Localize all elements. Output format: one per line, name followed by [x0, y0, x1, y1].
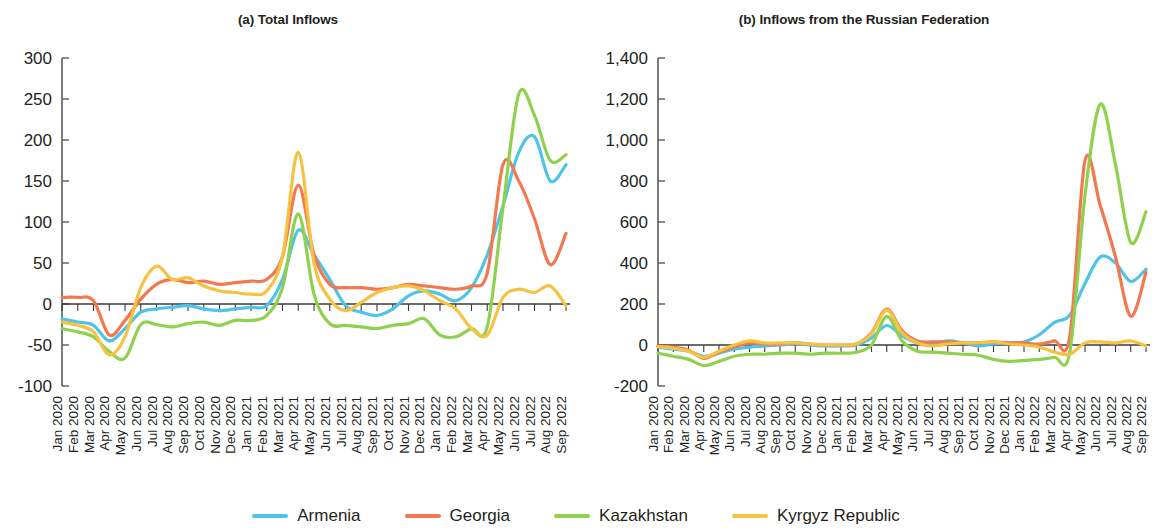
x-tick-label: May 2021 — [890, 396, 905, 455]
x-tick-label: Jun 2022 — [1088, 396, 1103, 452]
x-tick-label: Jun 2021 — [318, 396, 333, 452]
legend-swatch-icon — [405, 514, 441, 518]
y-tick-label: 200 — [24, 131, 52, 150]
x-tick-label: Jul 2020 — [738, 396, 753, 447]
x-tick-label: Nov 2020 — [208, 396, 223, 454]
x-tick-label: Aug 2022 — [1119, 396, 1134, 454]
x-tick-label: May 2022 — [1073, 396, 1088, 455]
legend-item[interactable]: Kazakhstan — [554, 506, 688, 526]
legend-item[interactable]: Georgia — [405, 506, 510, 526]
x-tick-label: Apr 2022 — [475, 396, 490, 451]
x-tick-label: Dec 2021 — [412, 396, 427, 454]
y-tick-label: -100 — [18, 377, 52, 396]
x-tick-label: Feb 2022 — [444, 396, 459, 453]
x-tick-label: Jul 2020 — [145, 396, 160, 447]
x-tick-label: Sep 2022 — [1134, 396, 1149, 454]
legend-item[interactable]: Armenia — [252, 506, 360, 526]
panel-a-svg: -100-50050100150200250300Jan 2020Feb 202… — [0, 20, 576, 490]
legend-label: Armenia — [297, 506, 360, 526]
x-tick-label: Sep 2020 — [768, 396, 783, 454]
x-tick-label: Sep 2021 — [365, 396, 380, 454]
x-tick-label: Oct 2020 — [192, 396, 207, 451]
x-tick-label: Mar 2022 — [1043, 396, 1058, 453]
y-tick-label: 1,000 — [605, 131, 648, 150]
y-tick-label: 400 — [620, 254, 648, 273]
y-tick-label: 250 — [24, 90, 52, 109]
x-tick-label: Feb 2021 — [255, 396, 270, 453]
x-tick-label: Aug 2020 — [160, 396, 175, 454]
x-tick-label: May 2020 — [113, 396, 128, 455]
x-tick-label: Mar 2022 — [460, 396, 475, 453]
y-tick-label: 0 — [43, 295, 52, 314]
x-tick-label: Apr 2020 — [97, 396, 112, 451]
x-tick-label: Oct 2021 — [966, 396, 981, 451]
legend-label: Kazakhstan — [599, 506, 688, 526]
x-tick-label: Aug 2022 — [538, 396, 553, 454]
x-tick-label: Dec 2020 — [814, 396, 829, 454]
x-tick-label: Apr 2021 — [286, 396, 301, 451]
panel-b-svg: -20002004006008001,0001,2001,400Jan 2020… — [576, 20, 1152, 490]
x-tick-label: Dec 2020 — [223, 396, 238, 454]
y-tick-label: 50 — [33, 254, 52, 273]
remittance-inflows-figure: (a) Total Inflows -100-50050100150200250… — [0, 0, 1152, 532]
x-tick-label: May 2021 — [302, 396, 317, 455]
y-tick-label: 100 — [24, 213, 52, 232]
x-tick-label: Mar 2020 — [82, 396, 97, 453]
x-tick-label: Jan 2020 — [50, 396, 65, 452]
chart-legend: ArmeniaGeorgiaKazakhstanKyrgyz Republic — [0, 500, 1152, 532]
x-tick-label: Apr 2022 — [1058, 396, 1073, 451]
x-tick-label: Apr 2021 — [875, 396, 890, 451]
y-tick-label: 300 — [24, 49, 52, 68]
x-tick-label: Feb 2021 — [844, 396, 859, 453]
x-tick-label: Jul 2022 — [1104, 396, 1119, 447]
x-tick-label: Jun 2021 — [905, 396, 920, 452]
x-tick-label: Jan 2020 — [646, 396, 661, 452]
panel-a-title: (a) Total Inflows — [0, 0, 576, 20]
panel-total-inflows: (a) Total Inflows -100-50050100150200250… — [0, 0, 576, 500]
panel-russian-federation-inflows: (b) Inflows from the Russian Federation … — [576, 0, 1152, 500]
y-tick-label: 150 — [24, 172, 52, 191]
y-tick-label: 600 — [620, 213, 648, 232]
x-tick-label: Jan 2022 — [1012, 396, 1027, 452]
series-line-kazakhstan — [62, 89, 566, 359]
x-tick-label: Nov 2021 — [397, 396, 412, 454]
legend-item[interactable]: Kyrgyz Republic — [732, 506, 900, 526]
x-tick-label: Jun 2020 — [129, 396, 144, 452]
panel-a-plot-area: -100-50050100150200250300Jan 2020Feb 202… — [0, 20, 576, 490]
x-tick-label: Oct 2021 — [381, 396, 396, 451]
x-tick-label: Jun 2020 — [722, 396, 737, 452]
x-tick-label: Mar 2021 — [271, 396, 286, 453]
x-tick-label: Jul 2022 — [523, 396, 538, 447]
x-tick-label: Sep 2020 — [176, 396, 191, 454]
x-tick-label: Feb 2022 — [1027, 396, 1042, 453]
x-tick-label: Jan 2022 — [428, 396, 443, 452]
x-tick-label: May 2020 — [707, 396, 722, 455]
x-tick-label: Feb 2020 — [66, 396, 81, 453]
x-tick-label: Apr 2020 — [692, 396, 707, 451]
x-tick-label: Dec 2021 — [997, 396, 1012, 454]
x-tick-label: Oct 2020 — [783, 396, 798, 451]
x-tick-label: Jan 2021 — [239, 396, 254, 452]
x-tick-label: Mar 2020 — [677, 396, 692, 453]
x-tick-label: Sep 2022 — [554, 396, 569, 454]
x-tick-label: Aug 2020 — [753, 396, 768, 454]
x-tick-label: Jun 2022 — [507, 396, 522, 452]
x-tick-label: Jul 2021 — [921, 396, 936, 447]
y-tick-label: -200 — [614, 377, 648, 396]
legend-label: Georgia — [450, 506, 510, 526]
y-tick-label: 200 — [620, 295, 648, 314]
x-tick-label: Nov 2021 — [982, 396, 997, 454]
y-tick-label: 1,200 — [605, 90, 648, 109]
legend-swatch-icon — [252, 514, 288, 518]
x-tick-label: Nov 2020 — [799, 396, 814, 454]
x-tick-label: Jan 2021 — [829, 396, 844, 452]
legend-swatch-icon — [732, 514, 768, 518]
panel-b-plot-area: -20002004006008001,0001,2001,400Jan 2020… — [576, 20, 1152, 490]
y-tick-label: 800 — [620, 172, 648, 191]
chart-panels: (a) Total Inflows -100-50050100150200250… — [0, 0, 1152, 500]
y-tick-label: 1,400 — [605, 49, 648, 68]
x-tick-label: Jul 2021 — [334, 396, 349, 447]
panel-b-title: (b) Inflows from the Russian Federation — [576, 0, 1152, 20]
x-tick-label: Aug 2021 — [936, 396, 951, 454]
x-tick-label: Aug 2021 — [349, 396, 364, 454]
